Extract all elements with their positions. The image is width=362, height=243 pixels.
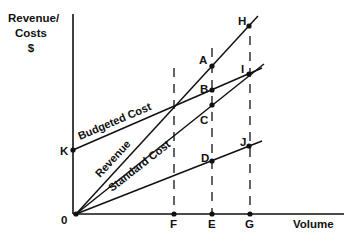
point-h xyxy=(246,23,251,28)
point-i xyxy=(246,71,251,76)
revenue-line xyxy=(76,16,258,214)
diagram-canvas: K 0 A B C D H I J F E G Volume Budgeted … xyxy=(0,0,362,243)
label-b: B xyxy=(200,83,208,95)
standard-cost-line xyxy=(76,64,264,214)
label-i: I xyxy=(241,63,244,75)
point-f xyxy=(171,211,176,216)
point-g xyxy=(247,211,252,216)
label-k: K xyxy=(60,145,69,157)
budgeted-cost-line xyxy=(73,68,262,150)
point-e xyxy=(209,211,214,216)
label-a: A xyxy=(199,54,207,66)
point-b xyxy=(209,87,214,92)
point-j xyxy=(246,143,251,148)
label-d: D xyxy=(201,152,209,164)
point-k xyxy=(70,147,75,152)
label-origin: 0 xyxy=(61,214,67,226)
lower-cost-line xyxy=(76,141,262,214)
label-e: E xyxy=(208,218,216,230)
label-j: J xyxy=(240,136,246,148)
label-h: H xyxy=(238,15,246,27)
label-c: C xyxy=(200,114,208,126)
x-axis-label: Volume xyxy=(293,218,334,230)
label-f: F xyxy=(170,218,177,230)
label-g: G xyxy=(245,218,254,230)
point-a xyxy=(209,63,214,68)
point-c xyxy=(209,102,214,107)
point-d xyxy=(209,158,214,163)
point-origin xyxy=(73,211,78,216)
